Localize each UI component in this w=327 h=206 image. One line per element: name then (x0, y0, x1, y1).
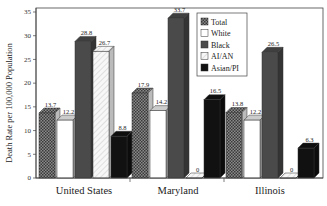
data-label: 0 (290, 166, 293, 173)
legend-item: Black (201, 41, 230, 50)
data-label: 26.7 (99, 39, 111, 46)
category-label: Illinois (255, 185, 285, 196)
y-tick-label: 0 (28, 174, 32, 182)
data-label: 28.8 (81, 29, 92, 36)
bar-black-maryland (168, 13, 189, 178)
legend-swatch (201, 64, 208, 71)
legend-swatch (201, 53, 208, 60)
data-label: 26.5 (268, 40, 279, 47)
bar-black-illinois (262, 47, 283, 178)
data-label: 16.5 (210, 87, 221, 94)
y-tick-label: 35 (24, 8, 32, 16)
data-label: 12.2 (250, 108, 261, 115)
category-label: Maryland (158, 185, 200, 196)
data-label: 14.2 (156, 98, 167, 105)
legend-label: AI/AN (211, 52, 233, 61)
legend-label: White (211, 29, 231, 38)
legend-swatch (201, 18, 208, 25)
data-label: 6.3 (305, 136, 313, 143)
x-axis: United StatesMarylandIllinois (36, 178, 323, 196)
y-tick-label: 15 (24, 103, 32, 111)
legend-item: Total (201, 18, 228, 27)
legend-label: Total (211, 18, 228, 27)
data-label: 12.2 (63, 108, 74, 115)
legend-label: Black (211, 41, 230, 50)
data-label: 13.7 (45, 101, 57, 108)
category-label: United States (56, 185, 112, 196)
legend: TotalWhiteBlackAI/ANAsian/PI (197, 13, 247, 76)
data-label: 17.9 (138, 81, 149, 88)
data-label: 13.8 (232, 100, 243, 107)
legend-swatch (201, 30, 208, 37)
bar-asian-pi-maryland (204, 95, 225, 178)
data-label: 8.8 (118, 124, 126, 131)
legend-item: AI/AN (201, 52, 233, 61)
bar-asian-pi-united-states (111, 131, 132, 178)
y-tick-label: 20 (24, 79, 32, 87)
bars (39, 13, 319, 178)
legend-label: Asian/PI (211, 64, 239, 73)
data-label: 33.7 (174, 6, 186, 13)
y-axis-title: Death Rate per 100,000 Population (4, 42, 14, 162)
bar-asian-pi-illinois (298, 143, 319, 178)
y-tick-label: 30 (24, 32, 32, 40)
legend-swatch (201, 41, 208, 48)
y-tick-label: 10 (24, 127, 32, 135)
legend-item: Asian/PI (201, 64, 239, 73)
data-label: 0 (196, 166, 199, 173)
y-tick-label: 25 (24, 56, 32, 64)
y-axis: 05101520253035 (24, 8, 36, 182)
bar-chart: Death Rate per 100,000 Population 051015… (0, 0, 327, 206)
y-tick-label: 5 (28, 151, 32, 159)
legend-item: White (201, 29, 231, 38)
